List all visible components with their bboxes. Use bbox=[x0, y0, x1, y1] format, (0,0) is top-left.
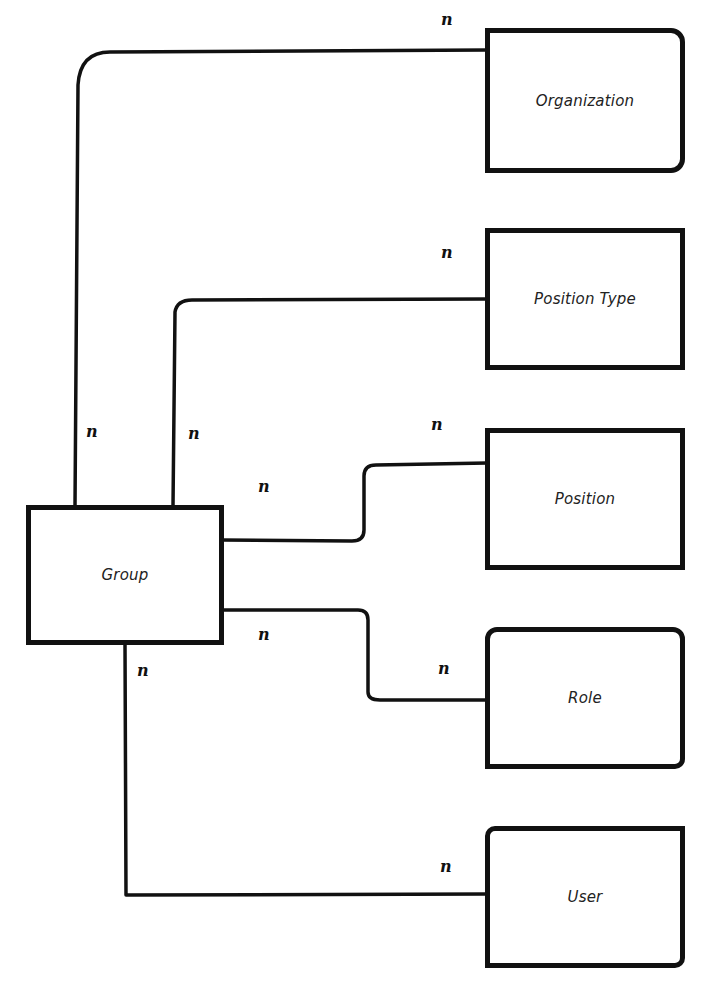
entity-label: Organization bbox=[536, 92, 635, 110]
cardinality-ptype-group-end: n bbox=[188, 424, 200, 443]
connector-group-position bbox=[222, 463, 487, 541]
entity-position-type[interactable]: Position Type bbox=[485, 228, 685, 370]
cardinality-org-group-end: n bbox=[86, 422, 98, 441]
cardinality-org-end: n bbox=[441, 10, 453, 29]
entity-position[interactable]: Position bbox=[485, 428, 685, 570]
connector-group-user bbox=[125, 644, 487, 895]
entity-label: User bbox=[568, 888, 603, 906]
cardinality-user-end: n bbox=[440, 857, 452, 876]
entity-label: Position bbox=[555, 490, 616, 508]
entity-organization[interactable]: Organization bbox=[485, 28, 685, 173]
cardinality-role-end: n bbox=[438, 659, 450, 678]
cardinality-ptype-end: n bbox=[441, 243, 453, 262]
entity-label: Position Type bbox=[534, 290, 636, 308]
cardinality-position-group-end: n bbox=[258, 477, 270, 496]
cardinality-user-group-end: n bbox=[137, 661, 149, 680]
connector-group-role bbox=[222, 610, 487, 700]
entity-group[interactable]: Group bbox=[26, 505, 224, 645]
cardinality-position-end: n bbox=[431, 415, 443, 434]
connector-group-organization bbox=[75, 50, 487, 506]
entity-role[interactable]: Role bbox=[485, 627, 685, 769]
entity-label: Role bbox=[568, 689, 602, 707]
cardinality-role-group-end: n bbox=[258, 625, 270, 644]
connector-group-position-type bbox=[173, 299, 487, 506]
entity-user[interactable]: User bbox=[485, 826, 685, 968]
entity-label: Group bbox=[102, 566, 149, 584]
